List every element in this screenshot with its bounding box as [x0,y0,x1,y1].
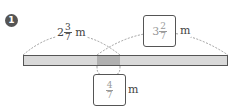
overlap-length-answer-box[interactable]: 47 [93,74,126,106]
left-length-label: 237 m [56,23,87,42]
total-length-answer-box[interactable]: 327 [143,15,176,47]
overlap-segment [97,55,120,66]
overlap-length-unit: m [128,83,138,96]
total-length-unit: m [179,24,191,37]
left-length-whole: 2 [57,26,64,39]
total-tape-bar [23,55,228,66]
left-length-fraction: 37 [64,23,72,42]
total-length-fraction: 27 [159,22,167,41]
total-length-whole: 3 [152,25,159,38]
left-length-unit: m [75,26,85,39]
overlap-length-fraction: 47 [106,81,114,100]
